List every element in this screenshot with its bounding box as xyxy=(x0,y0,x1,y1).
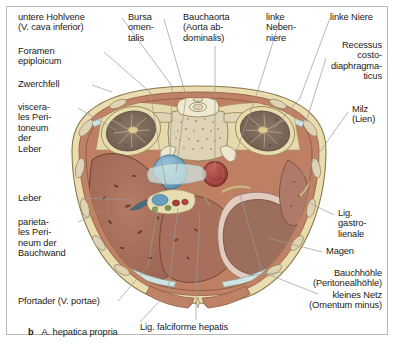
panel-letter: b xyxy=(28,327,34,337)
label-recessus-costodiaphragmaticus: Recessus costo- diaphragma- ticus xyxy=(331,40,382,82)
label-lig-falciforme-hepatis: Lig. falciforme hepatis xyxy=(140,322,228,332)
label-zwerchfell: Zwerchfell xyxy=(18,79,59,89)
label-foramen-epiploicum: Foramen epiploicum xyxy=(18,46,61,67)
bile-duct xyxy=(165,206,171,211)
hepatic-artery xyxy=(172,200,179,206)
label-bauchaorta: Bauchaorta (Aorta ab- dominalis) xyxy=(183,12,230,43)
label-vena-cava-inferior: untere Hohlvene (V. cava inferior) xyxy=(18,12,85,33)
label-linke-nebenniere: linke Neben- niere xyxy=(266,12,296,43)
label-bursa-omentalis: Bursa omen- talis xyxy=(128,12,154,43)
label-milz: Milz (Lien) xyxy=(352,104,375,125)
label-linke-niere: linke Niere xyxy=(330,12,373,22)
label-lig-gastrolienale: Lig. gastro- lienale xyxy=(338,208,366,239)
label-bauchhoehle: Bauchhöhle (Peritonealhöhle) xyxy=(313,268,382,289)
label-leber: Leber xyxy=(18,193,41,203)
label-pfortader: Pfortader (V. portae) xyxy=(18,296,100,306)
label-viscerales-peritoneum: viscera- les Peri- toneum der Leber xyxy=(18,102,51,154)
portal-vein xyxy=(152,195,168,206)
figure-container: untere Hohlvene (V. cava inferior) Foram… xyxy=(0,0,396,351)
label-a-hepatica-propria: A. hepatica propria xyxy=(42,327,118,337)
label-kleines-netz: kleines Netz (Omentum minus) xyxy=(309,290,382,311)
label-parietales-peritoneum: parieta- les Peri- neum der Bauchwand xyxy=(18,217,66,259)
panel-letter-row: bA. hepatica propria xyxy=(18,317,118,348)
label-magen: Magen xyxy=(326,246,354,256)
